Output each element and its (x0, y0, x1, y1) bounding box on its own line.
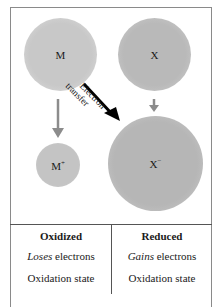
arrow-down-right-icon (149, 99, 159, 112)
reduced-row1: Gains electrons (112, 250, 212, 262)
reduced-row2: Oxidation state (112, 272, 212, 284)
oxidized-row1: Loses electrons (11, 250, 111, 262)
arrow-down-left-icon (52, 99, 64, 138)
oxidized-header: Oxidized (11, 230, 111, 242)
reduced-header: Reduced (112, 230, 212, 242)
oxidized-row2: Oxidation state (11, 272, 111, 284)
